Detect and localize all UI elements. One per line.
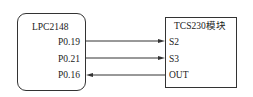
connection-lines (0, 0, 253, 97)
arrow-left-icon (86, 73, 93, 77)
arrow-right-icon (158, 39, 165, 43)
arrow-right-icon (158, 56, 165, 60)
